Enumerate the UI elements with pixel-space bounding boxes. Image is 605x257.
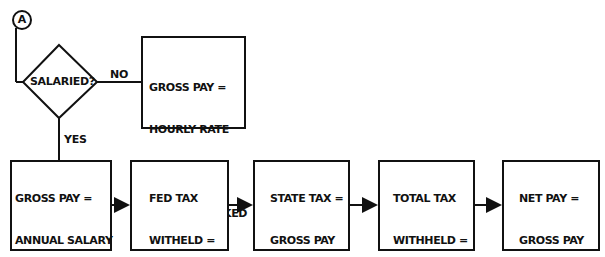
box-line: WITHELD = [149, 234, 215, 248]
box-line: FED TAX [149, 192, 215, 206]
fed-tax-box: FED TAX WITHELD = GROSS PAY X .28 [130, 160, 229, 251]
box-line: GROSS PAY = [149, 81, 247, 95]
salary-gross-pay-box: GROSS PAY = ANNUAL SALARY / 52 [10, 160, 112, 251]
box-line: HOURLY RATE [149, 123, 247, 137]
decision-label: SALARIED? [30, 75, 95, 88]
box-line: GROSS PAY [519, 234, 584, 248]
net-pay-box: NET PAY = GROSS PAY - TOTAL TAX WITHHELD [502, 160, 600, 251]
hourly-gross-pay-box: GROSS PAY = HOURLY RATE X HOURS WORKED [141, 36, 246, 129]
box-line: WITHHELD = [393, 234, 468, 248]
total-tax-box: TOTAL TAX WITHHELD = FED TAX WITHHELD + … [378, 160, 475, 251]
box-line: GROSS PAY [270, 234, 343, 248]
box-line: NET PAY = [519, 192, 584, 206]
no-label: NO [110, 68, 128, 81]
box-line: GROSS PAY = [15, 192, 112, 206]
state-tax-box: STATE TAX = GROSS PAY x .03 [253, 160, 350, 251]
box-line: TOTAL TAX [393, 192, 468, 206]
connector-a: A [12, 10, 32, 30]
box-line: STATE TAX = [270, 192, 343, 206]
yes-label: YES [64, 133, 87, 146]
box-line: ANNUAL SALARY [15, 234, 112, 248]
